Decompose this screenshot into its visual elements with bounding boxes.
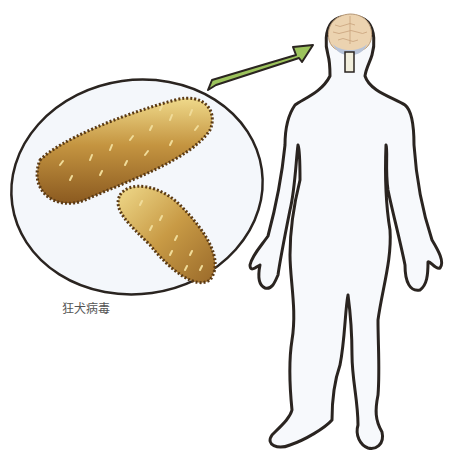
virus-caption: 狂犬病毒 xyxy=(62,299,110,316)
illustration xyxy=(0,0,459,463)
diagram-canvas: 狂犬病毒 xyxy=(0,0,459,463)
arrow-to-brain xyxy=(208,45,313,90)
human-body-outline xyxy=(250,16,442,448)
